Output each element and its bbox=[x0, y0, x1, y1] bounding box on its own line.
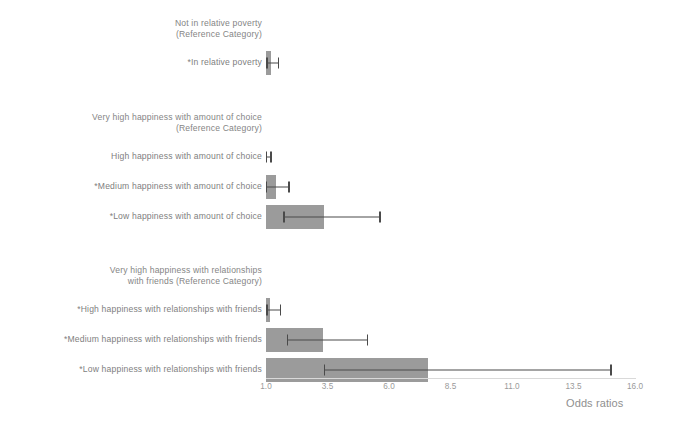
chart-row: *Low happiness with relationships with f… bbox=[0, 355, 679, 385]
odds-ratio-chart: Not in relative poverty (Reference Categ… bbox=[0, 0, 679, 428]
reference-category-relative-poverty: Not in relative poverty (Reference Categ… bbox=[0, 18, 679, 48]
confidence-interval-line bbox=[287, 340, 367, 341]
ci-upper-cap bbox=[270, 152, 271, 163]
row-plot-area bbox=[266, 295, 646, 325]
row-plot-area bbox=[266, 325, 646, 355]
ci-lower-cap bbox=[324, 365, 325, 376]
row-plot-area bbox=[266, 355, 646, 385]
ci-lower-cap bbox=[266, 182, 267, 193]
chart-row: *Medium happiness with amount of choice bbox=[0, 172, 679, 202]
x-axis-tick-label: 3.5 bbox=[322, 382, 333, 391]
x-axis-tick-label: 16.0 bbox=[627, 382, 643, 391]
chart-row: High happiness with amount of choice bbox=[0, 142, 679, 172]
ci-upper-cap bbox=[278, 58, 279, 69]
row-plot-area bbox=[266, 172, 646, 202]
row-plot-area bbox=[266, 48, 646, 78]
confidence-interval-line bbox=[266, 187, 288, 188]
confidence-interval-line bbox=[266, 310, 279, 311]
confidence-interval-line bbox=[324, 370, 611, 371]
category-label: *Low happiness with amount of choice bbox=[0, 211, 262, 222]
ci-upper-cap bbox=[610, 365, 611, 376]
chart-row: *High happiness with relationships with … bbox=[0, 295, 679, 325]
category-label: *Low happiness with relationships with f… bbox=[0, 364, 262, 375]
chart-row: *Low happiness with amount of choice bbox=[0, 202, 679, 232]
reference-category-label: Very high happiness with relationships w… bbox=[0, 265, 262, 287]
ci-lower-cap bbox=[266, 152, 267, 163]
x-axis-tick-label: 6.0 bbox=[383, 382, 394, 391]
x-axis-title: Odds ratios bbox=[566, 397, 623, 409]
row-plot-area bbox=[266, 202, 646, 232]
x-axis-tick-label: 8.5 bbox=[445, 382, 456, 391]
reference-category-label: Very high happiness with amount of choic… bbox=[0, 112, 262, 134]
x-axis-tick-label: 13.5 bbox=[566, 382, 582, 391]
confidence-interval-line bbox=[283, 217, 379, 218]
category-label: *Medium happiness with relationships wit… bbox=[0, 334, 262, 345]
category-label: *Medium happiness with amount of choice bbox=[0, 181, 262, 192]
reference-category-label: Not in relative poverty (Reference Categ… bbox=[0, 18, 262, 40]
ci-lower-cap bbox=[283, 212, 284, 223]
x-axis-tick-label: 11.0 bbox=[504, 382, 519, 391]
chart-row: *Medium happiness with relationships wit… bbox=[0, 325, 679, 355]
row-plot-area bbox=[266, 142, 646, 172]
category-label: *High happiness with relationships with … bbox=[0, 304, 262, 315]
category-label: High happiness with amount of choice bbox=[0, 151, 262, 162]
x-axis-tick-label: 1.0 bbox=[260, 382, 271, 391]
reference-category-happiness-with-relationships-with-friends: Very high happiness with relationships w… bbox=[0, 265, 679, 295]
chart-row: *In relative poverty bbox=[0, 48, 679, 78]
ci-upper-cap bbox=[379, 212, 380, 223]
ci-lower-cap bbox=[266, 305, 267, 316]
ci-lower-cap bbox=[266, 58, 267, 69]
reference-category-happiness-with-amount-of-choice: Very high happiness with amount of choic… bbox=[0, 112, 679, 142]
ci-lower-cap bbox=[287, 335, 288, 346]
confidence-interval-line bbox=[266, 63, 277, 64]
category-label: *In relative poverty bbox=[0, 57, 262, 68]
ci-upper-cap bbox=[367, 335, 368, 346]
x-axis-line bbox=[266, 378, 636, 379]
ci-upper-cap bbox=[280, 305, 281, 316]
ci-upper-cap bbox=[288, 182, 289, 193]
